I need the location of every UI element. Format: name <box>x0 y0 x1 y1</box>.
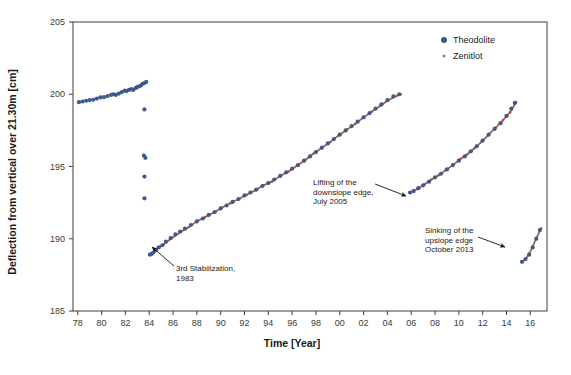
theodolite-point <box>509 107 513 111</box>
x-tick-label: 08 <box>430 318 440 328</box>
theodolite-point <box>427 180 431 184</box>
theodolite-point <box>412 189 416 193</box>
y-tick-label: 190 <box>50 234 65 244</box>
theodolite-point <box>344 128 348 132</box>
x-tick-label: 78 <box>73 318 83 328</box>
plot-frame-rect <box>73 22 547 311</box>
theodolite-point <box>266 181 270 185</box>
x-tick-label: 06 <box>406 318 416 328</box>
figure-page: 7880828486889092949698000204060810121416… <box>0 0 571 375</box>
theodolite-point <box>142 175 146 179</box>
theodolite-point <box>332 137 336 141</box>
x-tick-label: 14 <box>501 318 511 328</box>
theodolite-point <box>296 163 300 167</box>
theodolite-point <box>225 203 229 207</box>
theodolite-point <box>367 111 371 115</box>
theodolite-point <box>142 196 146 200</box>
annot-line: 1983 <box>176 274 194 283</box>
theodolite-point <box>88 98 92 102</box>
theodolite-point <box>102 95 106 99</box>
theodolite-point <box>219 206 223 210</box>
annot-line: 3rd Stabilization, <box>176 264 235 273</box>
theodolite-point <box>143 156 147 160</box>
theodolite-point <box>469 149 473 153</box>
theodolite-point <box>195 219 199 223</box>
theodolite-point <box>302 159 306 163</box>
theodolite-point <box>272 177 276 181</box>
theodolite-point <box>242 193 246 197</box>
x-tick-label: 94 <box>263 318 273 328</box>
theodolite-point <box>385 98 389 102</box>
annot-3rd-stabilization-text: 3rd Stabilization,1983 <box>176 264 235 283</box>
theodolite-point <box>416 186 420 190</box>
theodolite-point <box>379 102 383 106</box>
theodolite-point <box>213 210 217 214</box>
x-tick-label: 92 <box>239 318 249 328</box>
annot-line: downslope edge, <box>313 188 374 197</box>
x-tick-label: 00 <box>335 318 345 328</box>
theodolite-point <box>520 260 524 264</box>
theodolite-point <box>534 237 538 241</box>
theodolite-point <box>91 98 95 102</box>
annot-line: Sinking of the <box>425 226 474 235</box>
theodolite-point <box>513 101 517 105</box>
theodolite-point <box>230 200 234 204</box>
theodolite-point <box>284 170 288 174</box>
chart-figure: 7880828486889092949698000204060810121416… <box>0 0 571 375</box>
theodolite-point <box>391 94 395 98</box>
y-tick-label: 200 <box>50 89 65 99</box>
theodolite-point <box>463 154 467 158</box>
theodolite-point <box>504 114 508 118</box>
theodolite-point <box>236 197 240 201</box>
theodolite-point <box>408 190 412 194</box>
theodolite-point <box>248 190 252 194</box>
chart-annotations: 3rd Stabilization,1983Lifting of thedown… <box>152 178 505 283</box>
legend-label: Zenitlot <box>453 51 483 61</box>
theodolite-point <box>350 124 354 128</box>
zenitlot-segment <box>522 229 541 262</box>
x-tick-label: 80 <box>97 318 107 328</box>
theodolite-point <box>169 236 173 240</box>
theodolite-point <box>439 172 443 176</box>
theodolite-point <box>84 99 88 103</box>
theodolite-point <box>445 167 449 171</box>
theodolite-point <box>164 240 168 244</box>
theodolite-point <box>492 127 496 131</box>
theodolite-point <box>160 243 164 247</box>
chart-canvas: 7880828486889092949698000204060810121416… <box>0 0 571 375</box>
theodolite-point <box>320 146 324 150</box>
x-tick-label: 02 <box>359 318 369 328</box>
theodolite-point <box>475 144 479 148</box>
legend-marker <box>442 54 445 57</box>
theodolite-point <box>421 183 425 187</box>
theodolite-point <box>433 175 437 179</box>
annot-lifting-downslope-arrow <box>375 184 406 196</box>
theodolite-point <box>260 184 264 188</box>
theodolite-point <box>457 159 461 163</box>
theodolite-point <box>77 100 81 104</box>
x-tick-label: 82 <box>120 318 130 328</box>
x-tick-label: 84 <box>144 318 154 328</box>
theodolite-point <box>144 80 148 84</box>
annot-lifting-downslope-text: Lifting of thedownslope edge,July 2005 <box>313 178 374 206</box>
theodolite-point <box>326 141 330 145</box>
theodolite-point <box>183 227 187 231</box>
y-tick-label: 205 <box>50 17 65 27</box>
theodolite-point <box>105 94 109 98</box>
y-axis-title: Deflection from vertical over 21.30m [cm… <box>6 69 18 274</box>
theodolite-point <box>527 253 531 257</box>
x-tick-label: 98 <box>311 318 321 328</box>
x-tick-label: 86 <box>168 318 178 328</box>
axis-tick-labels: 7880828486889092949698000204060810121416… <box>50 17 535 328</box>
theodolite-point <box>314 150 318 154</box>
theodolite-point <box>451 163 455 167</box>
annot-3rd-stabilization-arrow <box>152 247 174 266</box>
theodolite-point <box>523 257 527 261</box>
annot-sinking-upslope-arrow <box>478 237 505 247</box>
zenitlot-segment <box>410 102 516 192</box>
theodolite-point <box>531 245 535 249</box>
x-tick-label: 88 <box>192 318 202 328</box>
zenitlot-point <box>502 119 505 122</box>
x-axis-title: Time [Year] <box>264 337 320 349</box>
theodolite-point <box>487 133 491 137</box>
